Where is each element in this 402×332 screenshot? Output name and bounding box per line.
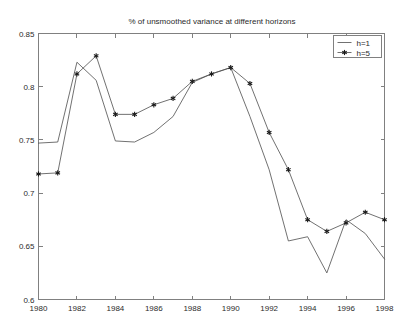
- x-tick-label: 1984: [106, 304, 124, 313]
- legend-label: h=5: [357, 49, 371, 58]
- x-tick-label: 1980: [30, 304, 48, 313]
- y-tick-label: 0.65: [19, 242, 35, 251]
- legend-label: h=1: [357, 39, 371, 48]
- line-chart: % of unsmoothed variance at different ho…: [0, 0, 402, 332]
- x-tick-label: 1982: [68, 304, 86, 313]
- y-tick-label: 0.7: [23, 189, 35, 198]
- y-tick-label: 0.75: [19, 136, 35, 145]
- figure-container: % of unsmoothed variance at different ho…: [0, 0, 402, 332]
- x-tick-label: 1992: [260, 304, 278, 313]
- x-tick-label: 1990: [222, 304, 240, 313]
- chart-legend[interactable]: h=1h=5: [334, 36, 382, 58]
- x-tick-label: 1998: [376, 304, 394, 313]
- x-tick-label: 1988: [183, 304, 201, 313]
- y-tick-label: 0.8: [23, 83, 35, 92]
- x-tick-label: 1994: [299, 304, 317, 313]
- chart-title: % of unsmoothed variance at different ho…: [128, 17, 295, 26]
- x-tick-label: 1996: [337, 304, 355, 313]
- x-tick-label: 1986: [145, 304, 163, 313]
- y-tick-label: 0.85: [19, 30, 35, 39]
